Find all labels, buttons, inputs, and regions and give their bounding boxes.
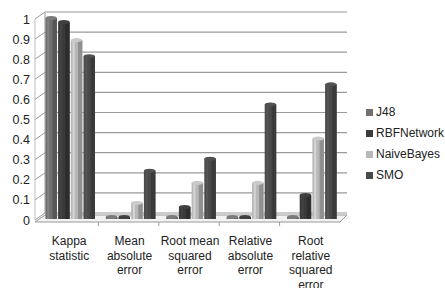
bar-shade — [199, 183, 203, 219]
legend-swatch — [366, 130, 373, 137]
bar — [84, 54, 96, 219]
bar-top — [144, 169, 156, 173]
side-gridline — [35, 133, 45, 140]
legend-label: SMO — [376, 168, 403, 182]
bar-highlight — [254, 183, 256, 219]
y-tick-label: 1 — [23, 13, 30, 27]
y-tick-label: 0.2 — [13, 173, 30, 187]
bar-top — [265, 102, 277, 106]
bar-top — [287, 215, 299, 219]
side-gridline — [35, 12, 45, 19]
bar — [312, 137, 324, 219]
x-category-label: Meanabsoluteerror — [107, 234, 153, 277]
bar-highlight — [266, 104, 268, 219]
bar-top — [131, 201, 143, 205]
x-category-label: Relativeabsoluteerror — [228, 234, 274, 277]
bar-top — [325, 82, 337, 86]
legend-item: J48 — [366, 105, 396, 119]
side-gridline — [35, 113, 45, 120]
bar — [58, 20, 70, 219]
bar-top — [239, 215, 251, 219]
bar-highlight — [193, 183, 195, 219]
legend-label: J48 — [376, 105, 396, 119]
side-gridline — [35, 72, 45, 79]
y-axis: 00.10.20.30.40.50.60.70.80.91 — [13, 12, 45, 228]
bar — [106, 215, 118, 219]
bar-shade — [259, 183, 263, 219]
bar-series — [45, 16, 336, 219]
bar-shade — [320, 139, 324, 219]
bar — [227, 215, 239, 219]
bar — [252, 181, 264, 219]
bar-highlight — [47, 18, 49, 219]
bar-highlight — [206, 159, 208, 219]
bar — [325, 82, 337, 219]
bar-highlight — [133, 203, 135, 219]
bar — [71, 38, 83, 219]
y-tick-label: 0.9 — [13, 33, 30, 47]
bar — [287, 215, 299, 219]
x-category-label: Root meansquarederror — [161, 234, 220, 277]
x-category-label: Kappastatistic — [49, 234, 89, 263]
bar-shade — [91, 56, 95, 219]
bar-top — [84, 54, 96, 58]
y-tick-label: 0.4 — [13, 133, 30, 147]
bar-top — [166, 215, 178, 219]
side-gridline — [35, 92, 45, 99]
bar-highlight — [327, 84, 329, 219]
bar-highlight — [60, 22, 62, 219]
bar-shade — [307, 195, 311, 219]
bar — [119, 215, 131, 219]
bar-top — [227, 215, 239, 219]
y-tick-label: 0.6 — [13, 93, 30, 107]
bar-top — [119, 215, 131, 219]
side-gridline — [35, 193, 45, 200]
bar-top — [192, 181, 204, 185]
side-gridline — [35, 153, 45, 160]
bar-top — [300, 193, 312, 197]
bar-top — [71, 38, 83, 42]
bar-shade — [53, 18, 57, 219]
y-tick-label: 0.7 — [13, 73, 30, 87]
bar-shade — [151, 171, 155, 219]
bar-top — [252, 181, 264, 185]
legend-item: SMO — [366, 168, 403, 182]
legend-swatch — [366, 109, 373, 116]
x-category-label: Rootrelativesquarederror — [289, 234, 332, 288]
bar-highlight — [146, 171, 148, 219]
bar-shade — [78, 40, 82, 219]
bar — [265, 102, 277, 219]
bar-shade — [138, 203, 142, 219]
legend-item: NaiveBayes — [366, 147, 440, 161]
side-gridline — [35, 52, 45, 59]
bar — [192, 181, 204, 219]
bar — [204, 157, 216, 219]
bar-chart: 00.10.20.30.40.50.60.70.80.91 Kappastati… — [0, 0, 445, 288]
x-axis-labels: KappastatisticMeanabsoluteerrorRoot mean… — [49, 234, 332, 288]
bar-top — [45, 16, 57, 20]
bar — [45, 16, 57, 219]
legend-label: NaiveBayes — [376, 147, 440, 161]
bar — [144, 169, 156, 219]
bar-top — [179, 205, 191, 209]
y-tick-label: 0.8 — [13, 53, 30, 67]
bar — [179, 205, 191, 219]
bar-highlight — [301, 195, 303, 219]
bar — [239, 215, 251, 219]
legend-label: RBFNetwork — [376, 126, 445, 140]
side-gridline — [35, 32, 45, 39]
y-tick-label: 0.5 — [13, 113, 30, 127]
side-gridline — [35, 173, 45, 180]
legend-swatch — [366, 172, 373, 179]
bar-highlight — [73, 40, 75, 219]
bar — [300, 193, 312, 219]
bar-top — [312, 137, 324, 141]
bar-shade — [272, 104, 276, 219]
bar-highlight — [85, 56, 87, 219]
y-tick-label: 0.3 — [13, 153, 30, 167]
legend-swatch — [366, 151, 373, 158]
y-tick-label: 0.1 — [13, 193, 30, 207]
bar-highlight — [314, 139, 316, 219]
bar-top — [106, 215, 118, 219]
bar-shade — [332, 84, 336, 219]
